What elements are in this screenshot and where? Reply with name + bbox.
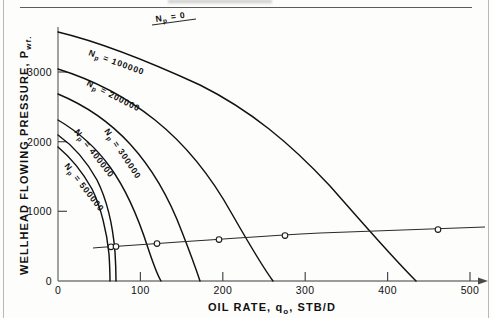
svg-text:Np = 500000: Np = 500000: [61, 161, 107, 215]
operating-point-np-200000: [216, 237, 222, 243]
curve-np-100000: [58, 69, 273, 281]
svg-text:Np = 100000: Np = 100000: [87, 47, 146, 79]
y-tick-label-0: 0: [46, 275, 52, 287]
x-axis-title: OIL RATE, qo, STB/D: [208, 301, 336, 316]
np-value: 200000: [107, 89, 142, 113]
operating-point-np-300000: [154, 241, 160, 247]
x-axis-ticks: [140, 272, 470, 281]
x-axis-title-part2: , STB/D: [289, 301, 336, 313]
curve-label-np-200000: Np = 200000: [84, 78, 142, 115]
x-tick-label-500: 500: [461, 284, 480, 296]
np-value: 500000: [78, 180, 107, 213]
operating-point-np-100000: [282, 233, 288, 239]
y-axis-title-sub: wf.: [24, 35, 33, 50]
np-value: 0: [179, 10, 186, 21]
svg-text:Np = 200000: Np = 200000: [84, 78, 142, 115]
x-tick-label-200: 200: [213, 284, 232, 296]
np-value: 300000: [116, 147, 143, 181]
x-tick-label-400: 400: [378, 284, 397, 296]
y-axis-title-main: WELLHEAD FLOWING PRESSURE, P: [18, 50, 30, 275]
y-tick-label-2000: 2000: [27, 136, 52, 148]
x-tick-label-0: 0: [55, 284, 61, 296]
np-value: 400000: [88, 146, 117, 179]
y-tick-label-3000: 3000: [27, 66, 52, 78]
curve-np-400000: [58, 135, 116, 281]
operating-point-np-400000: [113, 244, 119, 250]
curve-label-np-500000: Np = 500000: [61, 161, 107, 215]
x-axis-title-part1: OIL RATE, q: [208, 301, 283, 313]
tubing-performance-curve: [93, 227, 485, 248]
operating-point-np-0: [435, 227, 441, 233]
svg-text:OIL RATE, qo, STB/D: OIL RATE, qo, STB/D: [208, 301, 336, 316]
x-tick-label-100: 100: [131, 284, 150, 296]
x-tick-label-300: 300: [296, 284, 315, 296]
figure-container: 3000 2000 1000 0 0 100 200 300 400 500 W…: [0, 0, 492, 318]
curve-label-np-100000: Np = 100000: [87, 47, 146, 79]
chart-plot: 3000 2000 1000 0 0 100 200 300 400 500 W…: [0, 0, 492, 318]
x-axis-arrowhead: [478, 278, 488, 285]
x-tick-labels: 0 100 200 300 400 500: [55, 284, 479, 296]
y-tick-labels: 3000 2000 1000 0: [27, 66, 52, 287]
y-tick-label-1000: 1000: [27, 205, 52, 217]
